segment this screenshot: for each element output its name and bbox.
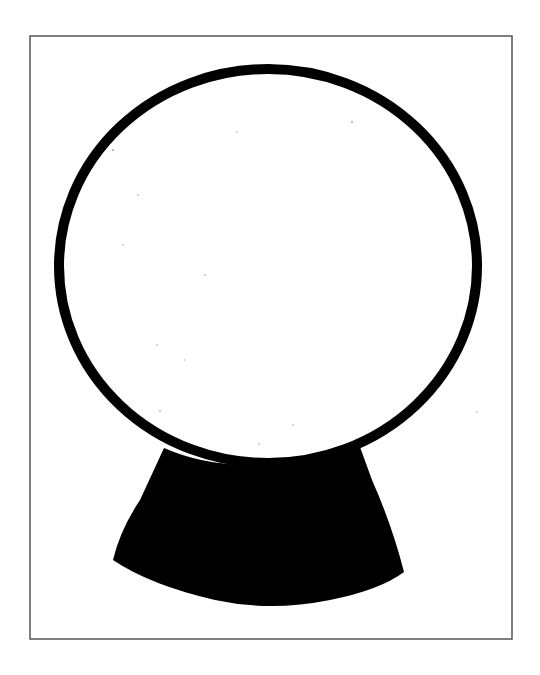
- snow-globe-illustration: [0, 0, 540, 675]
- globe-base: [113, 447, 404, 606]
- globe-outline: [59, 69, 477, 463]
